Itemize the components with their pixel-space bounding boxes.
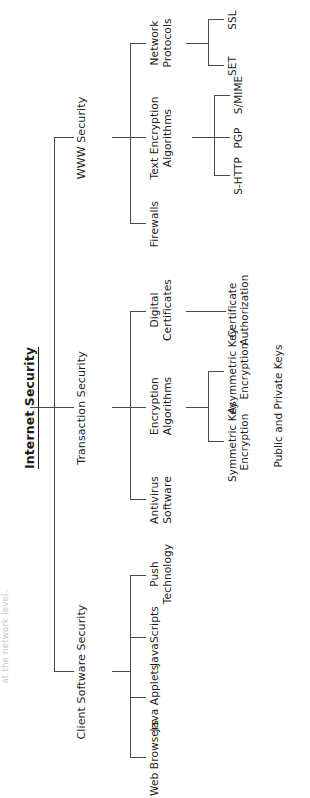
node-transaction-security: Transaction Security (76, 344, 89, 472)
root-node: Internet Security (8, 328, 38, 488)
node-digital-certificates: Digital Certificates (148, 262, 173, 358)
stem-digital-certificates (186, 311, 226, 312)
drop-ssl (208, 19, 224, 20)
drop-www-security (54, 137, 74, 138)
bus-encryption-children (208, 372, 209, 442)
drop-transaction-security (54, 407, 74, 408)
drop-text-encryption-algorithms (130, 137, 146, 138)
node-network-protocols: Network Protocols (148, 0, 173, 88)
root-label: Internet Security (22, 347, 39, 469)
node-encryption-algorithms: Encryption Algorithms (148, 358, 173, 454)
drop-client-software-security (54, 671, 74, 672)
bus-text-encryption-children (214, 96, 215, 176)
node-text-encryption-algorithms: Text Encryption Algorithms (148, 92, 173, 184)
node-set: SET (226, 42, 238, 90)
drop-digital-certificates (130, 311, 146, 312)
stem-www-security (112, 137, 130, 138)
node-www-security: WWW Security (76, 82, 89, 194)
bus-client-software-children (130, 576, 131, 758)
drop-symmetric-key (208, 441, 224, 442)
node-certificate-authorization: Certificate Authorization (226, 262, 251, 358)
node-client-software-security: Client Software Security (76, 602, 89, 742)
drop-antivirus-software (130, 499, 146, 500)
drop-asymmetric-key (208, 371, 224, 372)
drop-encryption-algorithms (130, 407, 146, 408)
level2-bus (54, 138, 55, 672)
stem-text-encryption-algorithms (192, 137, 214, 138)
node-firewalls: Firewalls (148, 184, 161, 264)
bus-network-protocol-children (208, 20, 209, 66)
bus-www-children (130, 44, 131, 224)
root-stem (30, 407, 54, 408)
drop-web-browsers (130, 757, 146, 758)
drop-push-technology (130, 575, 146, 576)
drop-firewalls (130, 223, 146, 224)
node-public-and-private-keys: Public and Private Keys (272, 328, 284, 484)
drop-java-applets (130, 697, 146, 698)
stem-encryption-algorithms (186, 407, 208, 408)
stem-network-protocols (186, 43, 208, 44)
drop-s-http (214, 175, 230, 176)
drop-pgp (214, 137, 230, 138)
drop-s-mime (214, 95, 230, 96)
drop-set (208, 65, 224, 66)
bus-transaction-children (130, 312, 131, 500)
drop-network-protocols (130, 43, 146, 44)
stem-transaction-security (112, 407, 130, 408)
node-ssl: SSL (226, 0, 238, 44)
drop-javascripts (130, 637, 146, 638)
stem-client-software-security (112, 671, 130, 672)
node-antivirus-software: Antivirus Software (148, 452, 173, 548)
